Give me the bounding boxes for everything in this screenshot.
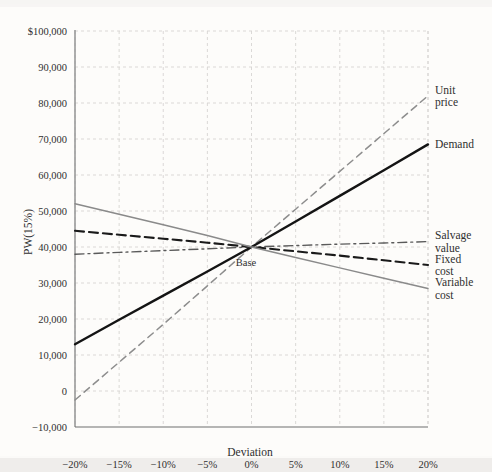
- y-tick-label: 60,000: [38, 170, 67, 181]
- series-label-unit-price: Unit: [435, 84, 456, 96]
- x-tick-label: 20%: [418, 459, 438, 470]
- series-label-salvage-value: Salvage: [435, 229, 471, 242]
- series-label-variable-cost: cost: [435, 289, 454, 301]
- y-tick-label: 90,000: [38, 62, 67, 73]
- series-labels: UnitpriceDemandSalvagevalueFixedcostVari…: [435, 84, 474, 301]
- y-tick-label: 30,000: [38, 278, 67, 289]
- base-point-label: Base: [236, 257, 257, 268]
- sensitivity-spider-chart: $100,00090,00080,00070,00060,00050,00040…: [0, 0, 492, 472]
- x-tick-labels: −20%−15%−10%−5%0%5%10%15%20%: [62, 459, 437, 470]
- y-axis-title: PW(15%): [22, 209, 35, 255]
- figure-container: $100,00090,00080,00070,00060,00050,00040…: [0, 0, 492, 472]
- x-tick-label: 15%: [374, 459, 394, 470]
- y-tick-label: 70,000: [38, 134, 67, 145]
- grid-lines: [75, 31, 428, 427]
- y-tick-label: 10,000: [38, 350, 67, 361]
- x-tick-label: 0%: [245, 459, 259, 470]
- x-tick-label: 5%: [289, 459, 303, 470]
- series-label-fixed-cost: Fixed: [435, 253, 461, 265]
- x-tick-label: −20%: [62, 459, 87, 470]
- y-tick-label: 40,000: [38, 242, 67, 253]
- y-tick-label: 50,000: [38, 206, 67, 217]
- series-label-unit-price: price: [435, 96, 458, 109]
- y-tick-label: 0: [62, 386, 67, 397]
- x-tick-label: −15%: [107, 459, 132, 470]
- x-tick-label: −5%: [197, 459, 217, 470]
- y-tick-label: 20,000: [38, 314, 67, 325]
- x-tick-label: −10%: [151, 459, 176, 470]
- x-axis-title: Deviation: [227, 446, 273, 458]
- y-tick-label: −10,000: [32, 422, 67, 433]
- y-tick-label: 80,000: [38, 98, 67, 109]
- series-label-variable-cost: Variable: [435, 276, 473, 288]
- x-tick-label: 10%: [330, 459, 350, 470]
- series-label-demand: Demand: [435, 138, 474, 150]
- y-tick-label: $100,000: [28, 26, 67, 37]
